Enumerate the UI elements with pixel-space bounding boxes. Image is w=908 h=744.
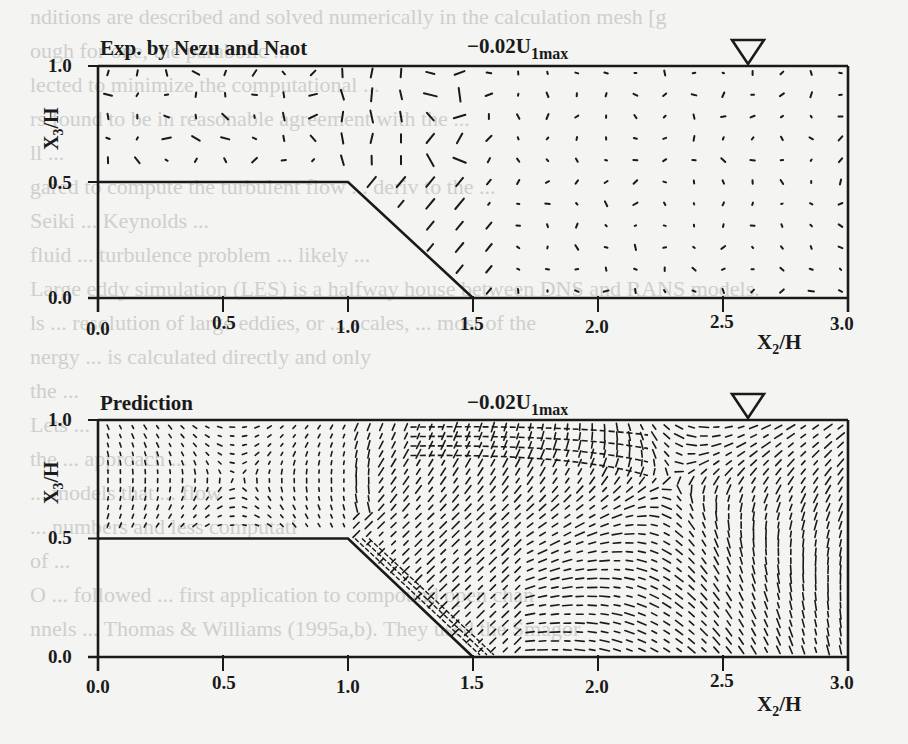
prediction-panel: Prediction −0.02U1max 1.0 0.5 0.0 X3/H 0… [0,354,908,724]
label-rest: /H [40,107,62,128]
label-sub: 3 [51,129,66,136]
label-sub: 3 [51,483,66,490]
y-axis-label: X3/H [40,107,67,150]
velocity-scale-label: −0.02U1max [467,34,568,63]
scale-value: −0.02U [467,390,531,414]
label-rest: /H [779,692,801,716]
label-rest: /H [779,330,801,354]
x-tick: 2.5 [710,311,734,333]
y-axis-label: X3/H [40,461,67,504]
y-tick: 1.0 [48,55,72,77]
velocity-scale-label: −0.02U1max [467,390,568,419]
x-tick: 2.0 [585,676,609,698]
x-tick: 0.0 [86,318,110,340]
x-tick: 2.5 [710,670,734,692]
y-tick: 1.0 [48,409,72,431]
x-tick: 1.0 [336,676,360,698]
y-tick: 0.0 [48,646,72,668]
x-tick: 1.5 [460,313,484,335]
x-tick: 0.0 [86,676,110,698]
y-tick: 0.0 [48,287,72,309]
label-main: X [757,692,772,716]
label-main: X [40,136,62,150]
experiment-panel: Exp. by Nezu and Naot −0.02U1max 1.0 0.5… [0,0,908,370]
scale-value: −0.02U [467,34,531,58]
y-tick: 0.5 [48,172,72,194]
x-tick: 2.0 [585,316,609,338]
panel-title: Prediction [100,391,193,416]
x-tick: 3.0 [830,313,854,335]
panel-title: Exp. by Nezu and Naot [100,36,307,61]
x-axis-label: X2/H [757,692,801,720]
y-tick: 0.5 [48,527,72,549]
scale-subscript: 1max [531,45,568,62]
x-tick: 0.5 [212,312,236,334]
x-tick: 1.5 [460,672,484,694]
x-tick: 1.0 [336,316,360,338]
x-tick: 3.0 [830,672,854,694]
scale-subscript: 1max [531,401,568,418]
label-rest: /H [40,461,62,482]
label-main: X [40,490,62,504]
label-main: X [757,330,772,354]
x-tick: 0.5 [212,672,236,694]
